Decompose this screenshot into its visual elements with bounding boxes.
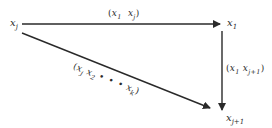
- node-xj1-sub: j+1: [232, 118, 245, 126]
- term-sub: 2: [89, 73, 96, 82]
- node-xj: xj: [10, 18, 18, 31]
- paren-close: ): [136, 8, 140, 18]
- node-x1: x1: [227, 18, 237, 31]
- term-sub: j+1: [248, 68, 261, 76]
- edge-label-x1-xj1: (x1 xj+1): [226, 64, 265, 76]
- node-xj-sub: j: [16, 23, 18, 31]
- node-x1-sub: 1: [233, 23, 237, 31]
- term-sub: 1: [235, 68, 239, 76]
- edge-xj-to-xj1: [22, 33, 210, 108]
- paren-close: ): [261, 63, 265, 73]
- term-sub: 1: [117, 13, 121, 21]
- node-xj1: xj+1: [226, 113, 244, 126]
- edge-label-xj-x1: (x1 xj): [108, 9, 140, 21]
